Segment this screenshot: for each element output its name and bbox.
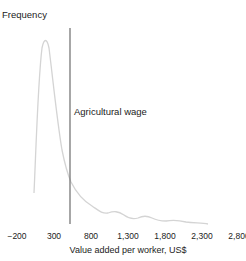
agricultural-wage-annotation: Agricultural wage (74, 106, 147, 117)
x-tick: 2,300 (191, 231, 212, 241)
x-tick: −200 (7, 231, 26, 241)
density-curve (34, 41, 208, 225)
x-tick: 800 (84, 231, 98, 241)
density-plot (0, 0, 246, 261)
x-tick: 300 (47, 231, 61, 241)
x-tick: 2,800 (228, 231, 246, 241)
x-axis-label: Value added per worker, US$ (70, 245, 187, 255)
x-tick: 1,800 (154, 231, 175, 241)
x-tick: 1,300 (117, 231, 138, 241)
